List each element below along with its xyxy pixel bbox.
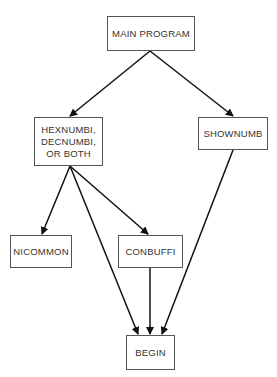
edge-hex-to-conbuffi <box>70 166 148 234</box>
edge-main-to-shownumb <box>150 51 233 116</box>
node-hexnumbi-decnumbi: HEXNUMBI, DECNUMBI, OR BOTH <box>34 117 103 166</box>
node-begin: BEGIN <box>126 335 175 370</box>
node-nicommon: NICOMMON <box>10 235 72 268</box>
edge-hex-to-nicommon <box>42 166 70 234</box>
edge-main-to-hex <box>70 51 150 116</box>
node-shownumb: SHOWNUMB <box>198 117 268 150</box>
edges-layer <box>0 0 277 377</box>
node-main-program: MAIN PROGRAM <box>107 16 195 51</box>
node-conbuffi: CONBUFFI <box>118 235 183 268</box>
